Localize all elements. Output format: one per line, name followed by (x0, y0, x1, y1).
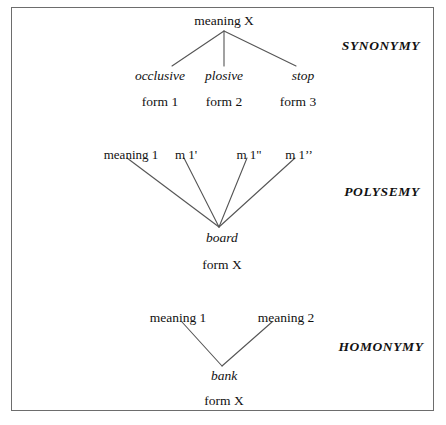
figure-root: meaning X occlusive plosive stop form 1 … (0, 0, 446, 425)
polysemy-meaning-4: m 1’’ (285, 148, 313, 161)
homonymy-form-label: form X (204, 394, 243, 408)
synonymy-word-stop: stop (292, 69, 315, 83)
polysemy-form-label: form X (202, 258, 241, 272)
polysemy-meaning-1: meaning 1 (104, 148, 159, 161)
synonymy-word-plosive: plosive (205, 69, 243, 83)
synonymy-form-1: form 1 (142, 95, 178, 109)
polysemy-vertex-word: board (206, 231, 238, 245)
polysemy-meaning-3: m 1" (236, 148, 261, 161)
section-label-homonymy: HOMONYMY (338, 340, 423, 354)
section-label-synonymy: SYNONYMY (342, 39, 420, 53)
homonymy-vertex-word: bank (211, 369, 237, 383)
synonymy-form-3: form 3 (280, 95, 316, 109)
homonymy-meaning-1: meaning 1 (150, 311, 207, 325)
synonymy-top-node: meaning X (194, 14, 254, 28)
synonymy-form-2: form 2 (206, 95, 242, 109)
synonymy-word-occlusive: occlusive (135, 69, 185, 83)
polysemy-meaning-2: m 1' (175, 148, 197, 161)
homonymy-meaning-2: meaning 2 (258, 311, 315, 325)
section-label-polysemy: POLYSEMY (344, 185, 420, 199)
